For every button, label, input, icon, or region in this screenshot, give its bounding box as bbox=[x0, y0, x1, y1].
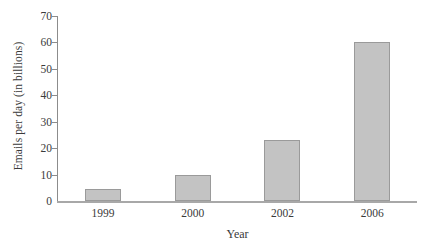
bar bbox=[354, 42, 390, 201]
y-axis-tick-mark bbox=[52, 148, 57, 149]
y-axis-tick-mark bbox=[52, 42, 57, 43]
y-axis-title: Emails per day (in billions) bbox=[10, 6, 26, 206]
y-axis-tick-label: 20 bbox=[26, 142, 52, 154]
bar bbox=[264, 140, 300, 201]
y-axis-tick-mark bbox=[52, 122, 57, 123]
y-axis-tick-mark bbox=[52, 175, 57, 176]
y-axis-tick-mark bbox=[52, 69, 57, 70]
y-axis-tick-label: 60 bbox=[26, 36, 52, 48]
x-axis-tick-label: 2002 bbox=[238, 206, 328, 220]
y-axis-tick-mark bbox=[52, 95, 57, 96]
x-axis-title: Year bbox=[58, 227, 417, 241]
x-axis-tick-label: 2006 bbox=[327, 206, 417, 220]
plot-area bbox=[58, 16, 417, 201]
x-axis-line bbox=[57, 201, 417, 203]
bar bbox=[175, 175, 211, 201]
x-axis-tick-label: 1999 bbox=[58, 206, 148, 220]
y-axis-tick-label: 70 bbox=[26, 10, 52, 22]
y-axis-tick-label: 40 bbox=[26, 89, 52, 101]
x-axis-tick-label: 2000 bbox=[148, 206, 238, 220]
bar-chart: Emails per day (in billions) 01020304050… bbox=[0, 0, 423, 250]
y-axis-tick-mark bbox=[52, 16, 57, 17]
y-axis-tick-label: 30 bbox=[26, 116, 52, 128]
y-axis-tick-label: 10 bbox=[26, 169, 52, 181]
y-axis-tick-labels: 010203040506070 bbox=[26, 0, 52, 250]
y-axis-tick-label: 0 bbox=[26, 195, 52, 207]
bar bbox=[85, 189, 121, 201]
y-axis-tick-label: 50 bbox=[26, 63, 52, 75]
